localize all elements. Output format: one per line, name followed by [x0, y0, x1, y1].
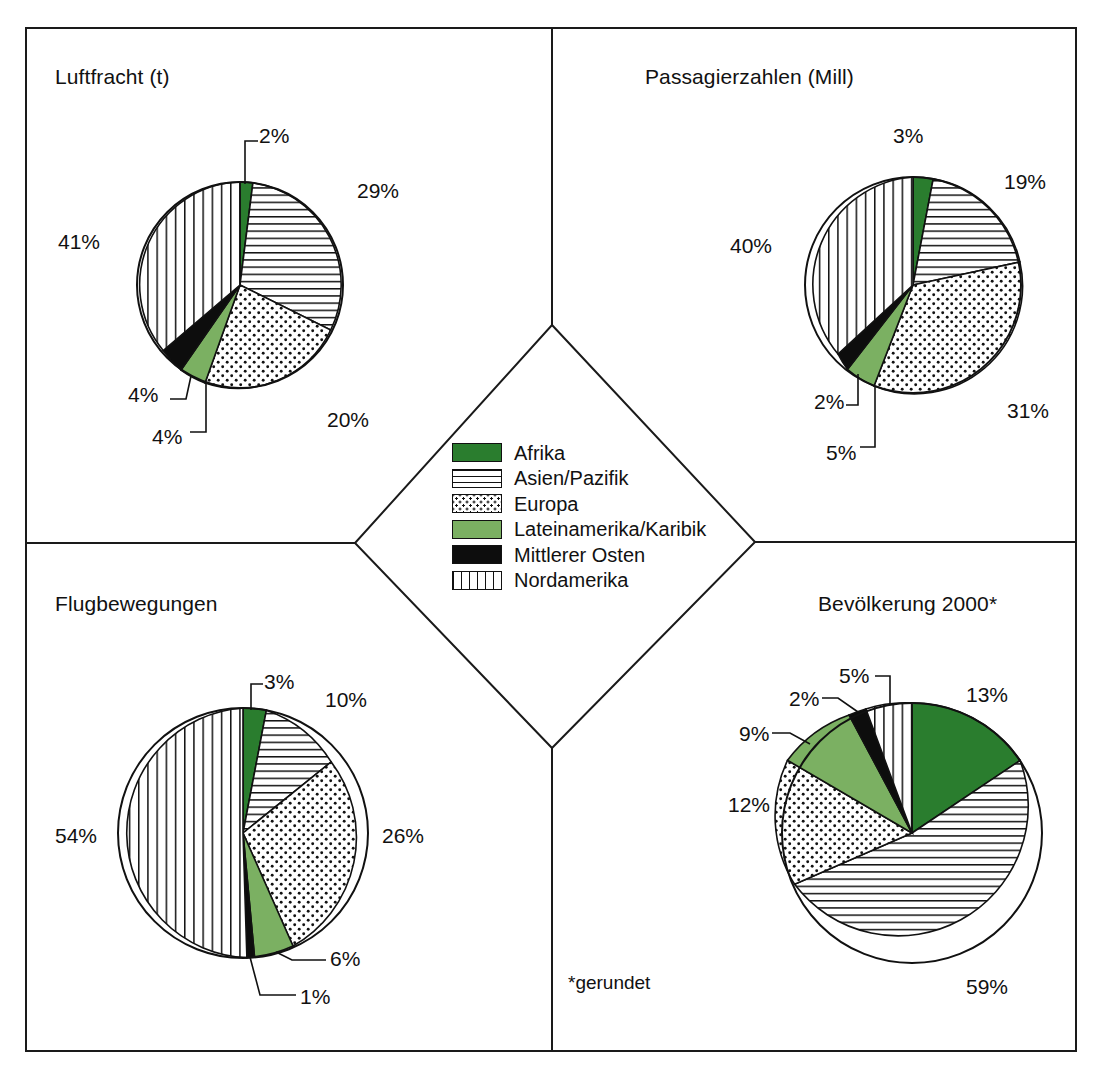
pct-label-luftfracht-nordamerika: 41%	[58, 230, 100, 254]
chart-title-bevoelkerung: Bevölkerung 2000*	[818, 592, 997, 616]
legend-label-afrika: Afrika	[514, 443, 565, 463]
legend-swatch-asien-pazifik-icon	[452, 469, 502, 488]
pct-label-luftfracht-afrika: 2%	[259, 124, 289, 148]
pct-label-bevoelkerung-mittlerer-osten: 2%	[789, 687, 819, 711]
pct-label-passagierzahlen-asien-pazifik: 19%	[1004, 170, 1046, 194]
pct-label-flugbewegungen-nordamerika: 54%	[55, 824, 97, 848]
pct-label-flugbewegungen-afrika: 3%	[264, 670, 294, 694]
legend-label-nordamerika: Nordamerika	[514, 570, 628, 590]
pie-bevoelkerung	[772, 676, 1042, 963]
legend-swatch-nordamerika-icon	[452, 571, 502, 590]
chart-title-flugbewegungen: Flugbewegungen	[55, 592, 218, 616]
legend-label-mittlerer-osten: Mittlerer Osten	[514, 545, 645, 565]
pct-label-luftfracht-lateinamerika-karibik: 4%	[152, 425, 182, 449]
legend-item-nordamerika: Nordamerika	[452, 568, 706, 594]
pct-label-bevoelkerung-lateinamerika-karibik: 9%	[739, 722, 769, 746]
pct-label-flugbewegungen-europa: 26%	[382, 824, 424, 848]
pct-label-bevoelkerung-nordamerika: 5%	[839, 664, 869, 688]
chart-title-passagierzahlen: Passagierzahlen (Mill)	[645, 65, 854, 89]
pct-label-bevoelkerung-europa: 12%	[728, 793, 770, 817]
legend-item-lateinamerika-karibik: Lateinamerika/Karibik	[452, 517, 706, 543]
legend-item-afrika: Afrika	[452, 440, 706, 466]
pct-label-passagierzahlen-europa: 31%	[1007, 399, 1049, 423]
pct-label-passagierzahlen-lateinamerika-karibik: 5%	[826, 441, 856, 465]
pct-label-passagierzahlen-mittlerer-osten: 2%	[814, 390, 844, 414]
legend-swatch-lateinamerika-karibik-icon	[452, 520, 502, 539]
chart-title-luftfracht: Luftfracht (t)	[55, 65, 170, 89]
legend-swatch-mittlerer-osten-icon	[452, 545, 502, 564]
figure-page: Luftfracht (t) Passagierzahlen (Mill) Fl…	[0, 0, 1106, 1075]
pct-label-flugbewegungen-mittlerer-osten: 1%	[300, 985, 330, 1009]
pie-luftfracht	[137, 141, 343, 432]
pct-label-bevoelkerung-asien-pazifik: 59%	[966, 975, 1008, 999]
legend-label-asien-pazifik: Asien/Pazifik	[514, 468, 629, 488]
legend-swatch-europa-icon	[452, 494, 502, 513]
legend-item-mittlerer-osten: Mittlerer Osten	[452, 542, 706, 568]
pct-label-bevoelkerung-afrika: 13%	[966, 683, 1008, 707]
pct-label-luftfracht-europa: 20%	[327, 408, 369, 432]
pct-label-passagierzahlen-nordamerika: 40%	[730, 234, 772, 258]
pct-label-luftfracht-mittlerer-osten: 4%	[128, 383, 158, 407]
pct-label-flugbewegungen-asien-pazifik: 10%	[325, 688, 367, 712]
legend-swatch-afrika-icon	[452, 443, 502, 462]
footnote-gerundet: *gerundet	[568, 972, 650, 994]
legend: Afrika Asien/Pazifik Europa Lateinamerik…	[452, 440, 706, 593]
pct-label-flugbewegungen-lateinamerika-karibik: 6%	[330, 947, 360, 971]
legend-label-lateinamerika-karibik: Lateinamerika/Karibik	[514, 519, 706, 539]
pct-label-passagierzahlen-afrika: 3%	[893, 124, 923, 148]
legend-item-europa: Europa	[452, 491, 706, 517]
pct-label-luftfracht-asien-pazifik: 29%	[357, 179, 399, 203]
legend-item-asien-pazifik: Asien/Pazifik	[452, 466, 706, 492]
legend-label-europa: Europa	[514, 494, 579, 514]
slice-nordamerika	[127, 708, 247, 958]
